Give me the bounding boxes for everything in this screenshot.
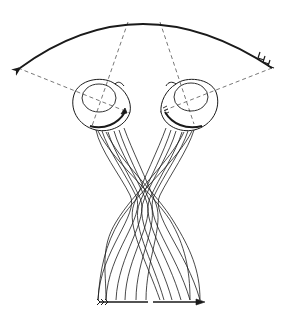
right-retina-arrow: [165, 112, 202, 127]
optic-chiasm-diagram: [0, 0, 296, 318]
projection-lines: [18, 22, 272, 126]
optic-nerve-fibers: [96, 128, 200, 300]
right-eye: [161, 79, 218, 130]
bottom-arrow: [97, 299, 205, 305]
visual-field-arc: [20, 24, 274, 68]
left-eye: [73, 79, 131, 130]
left-lens: [82, 84, 116, 112]
left-retina-arrow: [90, 112, 125, 127]
right-lens: [174, 83, 208, 111]
